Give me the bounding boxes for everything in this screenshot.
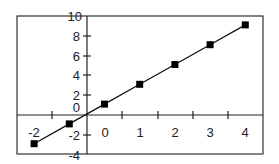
data-point-marker bbox=[242, 21, 249, 28]
x-tick-label: 2 bbox=[171, 125, 178, 140]
y-tick-label: -2 bbox=[68, 128, 80, 143]
y-tick-label: 4 bbox=[73, 68, 80, 83]
x-tick-label: 0 bbox=[101, 125, 108, 140]
x-tick-label: -2 bbox=[28, 125, 40, 140]
y-tick-label: 8 bbox=[73, 29, 80, 44]
y-tick-label: 10 bbox=[68, 9, 82, 24]
x-tick-label: 1 bbox=[136, 125, 143, 140]
data-point-marker bbox=[207, 41, 214, 48]
data-point-marker bbox=[136, 81, 143, 88]
y-tick-label: -4 bbox=[68, 148, 80, 163]
y-tick-labels: 10 8 6 4 2 0 -2 -4 bbox=[68, 9, 82, 163]
y-tick-label: 0 bbox=[73, 100, 80, 115]
x-tick-labels: -2 0 1 2 3 4 bbox=[28, 125, 248, 140]
data-point-marker bbox=[31, 140, 38, 147]
data-point-marker bbox=[171, 61, 178, 68]
x-tick-label: 3 bbox=[206, 125, 213, 140]
scatter-line-chart: 10 8 6 4 2 0 -2 -4 -2 0 1 2 3 4 bbox=[0, 0, 279, 164]
x-tick-label: 4 bbox=[241, 125, 248, 140]
data-point-marker bbox=[66, 120, 73, 127]
data-point-marker bbox=[101, 101, 108, 108]
y-tick-label: 6 bbox=[73, 49, 80, 64]
